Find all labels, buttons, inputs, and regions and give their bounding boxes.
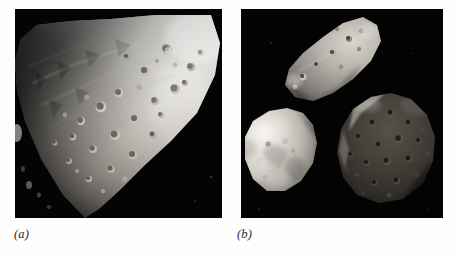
asteroid-gaspra-large [15,9,222,218]
panel-a-image [15,9,222,218]
panel-a-label: (a) [14,228,29,241]
panel-b-label: (b) [237,228,252,241]
panel-b-image [241,9,443,218]
figure-root: (a) [0,0,459,256]
three-bodies-group [241,9,443,218]
